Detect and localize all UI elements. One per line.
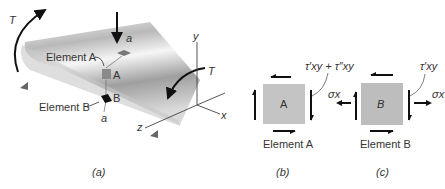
point-b-label: B (113, 92, 120, 104)
element-b-callout: Element B (39, 101, 90, 113)
axis-x-label: x (220, 109, 227, 121)
element-a-letter: A (280, 98, 288, 110)
torque-right-label: T (208, 65, 216, 77)
element-a-marker (102, 69, 111, 79)
section-label-top: a (126, 32, 132, 44)
support-right (150, 130, 158, 138)
caption-a: (a) (92, 166, 106, 178)
shear-stress-label-b: τ′xy (420, 60, 439, 72)
element-a-title: Element A (263, 138, 314, 150)
point-a-label: A (113, 69, 121, 81)
normal-stress-left-label: σx (328, 88, 341, 100)
element-b-letter: B (377, 98, 384, 110)
axis-z-label: z (136, 121, 143, 133)
panel-a: T T a a A Element A B Element B y (9, 10, 227, 178)
element-a-callout: Element A (46, 51, 97, 63)
section-label-bottom: a (101, 112, 107, 124)
axis-y-label: y (192, 30, 200, 42)
support-left (20, 82, 28, 90)
shear-stress-label-a: τ′xy + τ″xy (305, 60, 355, 72)
figure-canvas: T T a a A Element A B Element B y (0, 0, 445, 189)
element-b-title: Element B (360, 138, 411, 150)
normal-stress-right-label: σx (432, 88, 445, 100)
caption-b: (b) (276, 166, 290, 178)
torque-left-label: T (9, 14, 17, 26)
panel-b: A τ′xy + τ″xy Element A (b) (252, 60, 355, 178)
panel-c: B σx σx τ′xy Element B (c) (328, 60, 445, 178)
caption-c: (c) (376, 166, 389, 178)
